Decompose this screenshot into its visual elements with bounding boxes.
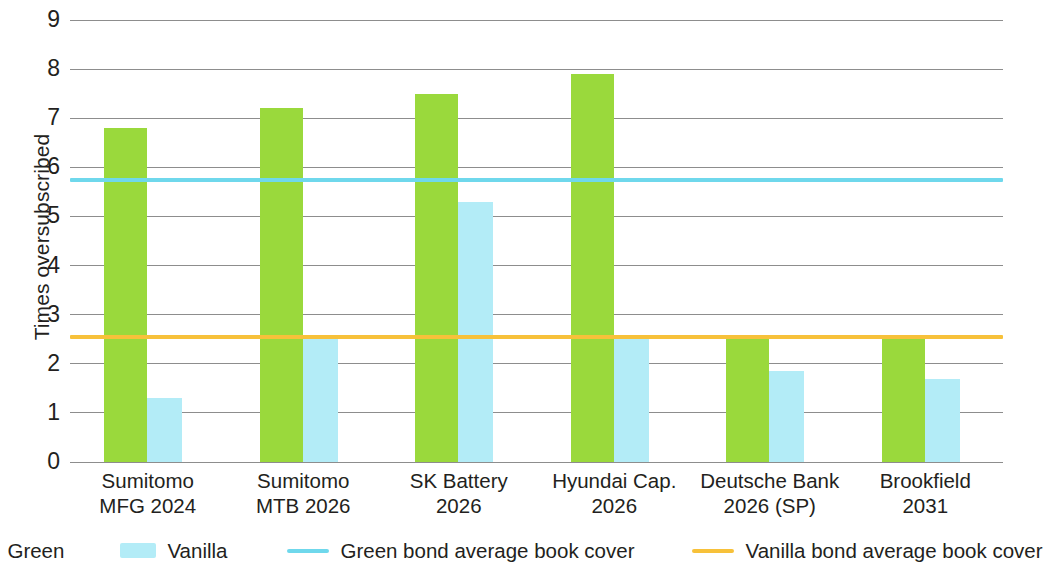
- y-axis-tick-label: 1: [22, 401, 60, 424]
- axis-baseline: [70, 462, 1003, 463]
- legend-label: Green: [7, 539, 64, 563]
- x-axis-category-label: Deutsche Bank2026 (SP): [692, 468, 848, 518]
- y-axis-tick-label: 6: [22, 155, 60, 178]
- x-axis-category-label-line: Sumitomo: [70, 468, 226, 493]
- x-axis-category-label: SK Battery2026: [381, 468, 537, 518]
- legend-item[interactable]: Vanilla: [120, 539, 227, 563]
- x-axis-category-label-line: MTB 2026: [226, 493, 382, 518]
- legend-item[interactable]: Green: [0, 539, 64, 563]
- x-axis-category-label-line: 2026 (SP): [692, 493, 848, 518]
- reference-line: [70, 335, 1003, 339]
- gridline: [70, 69, 1003, 70]
- x-axis-category-label-line: 2031: [848, 493, 1004, 518]
- reference-line: [70, 178, 1003, 182]
- gridline: [70, 363, 1003, 364]
- x-axis-category-label-line: Deutsche Bank: [692, 468, 848, 493]
- legend-item[interactable]: Green bond average book cover: [287, 539, 634, 563]
- legend-label: Vanilla bond average book cover: [745, 539, 1042, 563]
- bar-vanilla: [614, 339, 649, 462]
- y-axis-tick-label: 9: [22, 8, 60, 31]
- y-axis-tick-label: 0: [22, 450, 60, 473]
- x-axis-category-label-line: 2026: [381, 493, 537, 518]
- bar-vanilla: [147, 398, 182, 462]
- legend-label: Vanilla: [167, 539, 227, 563]
- plot-area: [70, 20, 1003, 462]
- x-axis-category-label: SumitomoMFG 2024: [70, 468, 226, 518]
- legend-line-icon: [287, 549, 329, 553]
- x-axis-category-label: SumitomoMTB 2026: [226, 468, 382, 518]
- chart-legend: GreenVanillaGreen bond average book cove…: [0, 533, 1003, 568]
- gridline: [70, 118, 1003, 119]
- bar-green: [726, 339, 769, 462]
- x-axis-category-labels: SumitomoMFG 2024SumitomoMTB 2026SK Batte…: [70, 468, 1003, 520]
- bar-vanilla: [303, 339, 338, 462]
- y-axis-tick-label: 8: [22, 57, 60, 80]
- y-axis-tick-label: 4: [22, 254, 60, 277]
- gridline: [70, 314, 1003, 315]
- y-axis-tick-label: 3: [22, 303, 60, 326]
- x-axis-category-label-line: Sumitomo: [226, 468, 382, 493]
- y-axis-tick-label: 7: [22, 106, 60, 129]
- x-axis-category-label-line: Hyundai Cap.: [537, 468, 693, 493]
- bar-vanilla: [769, 371, 804, 462]
- legend-line-icon: [692, 549, 734, 553]
- bar-green: [260, 108, 303, 462]
- gridline: [70, 412, 1003, 413]
- x-axis-category-label-line: SK Battery: [381, 468, 537, 493]
- gridline: [70, 167, 1003, 168]
- x-axis-category-label-line: Brookfield: [848, 468, 1004, 493]
- x-axis-category-label: Hyundai Cap.2026: [537, 468, 693, 518]
- y-axis-title: Times oversubscribed: [30, 107, 54, 367]
- legend-swatch-icon: [120, 543, 156, 558]
- legend-item[interactable]: Vanilla bond average book cover: [692, 539, 1042, 563]
- x-axis-category-label-line: MFG 2024: [70, 493, 226, 518]
- bar-vanilla: [458, 202, 493, 462]
- bar-green: [882, 339, 925, 462]
- x-axis-category-label: Brookfield2031: [848, 468, 1004, 518]
- legend-label: Green bond average book cover: [340, 539, 634, 563]
- y-axis-tick-label: 2: [22, 352, 60, 375]
- bar-vanilla: [925, 379, 960, 462]
- x-axis-category-label-line: 2026: [537, 493, 693, 518]
- y-axis-tick-label: 5: [22, 204, 60, 227]
- gridline: [70, 20, 1003, 21]
- gridline: [70, 216, 1003, 217]
- gridline: [70, 265, 1003, 266]
- bar-green: [571, 74, 614, 462]
- bar-green: [415, 94, 458, 462]
